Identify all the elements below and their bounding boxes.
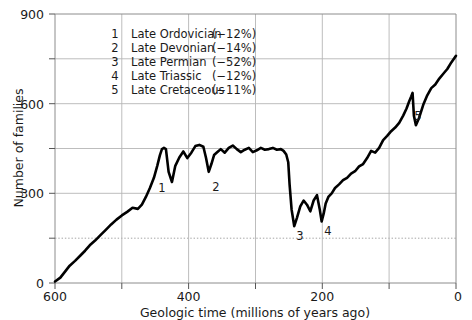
event-marker-2: 2 (212, 180, 219, 194)
chart-canvas: 900 600 300 0 600 400 200 0 Number of fa… (0, 0, 472, 320)
legend-name-4: Late Triassic (131, 69, 202, 83)
event-marker-5: 5 (414, 109, 421, 123)
legend-row-4: 4 Late Triassic (−12%) (111, 69, 256, 83)
extinction-legend: 1 Late Ordovician (−12%) 2 Late Devonian… (111, 27, 256, 97)
legend-row-1: 1 Late Ordovician (−12%) (111, 27, 256, 41)
legend-number-2: 2 (111, 41, 118, 55)
legend-pct-2: (−14%) (212, 41, 256, 55)
event-marker-3: 3 (296, 229, 303, 243)
legend-row-2: 2 Late Devonian (−14%) (111, 41, 256, 55)
diversity-chart-figure: 900 600 300 0 600 400 200 0 Number of fa… (0, 0, 472, 320)
xlabel-200: 200 (310, 289, 334, 304)
ylabel-900: 900 (20, 7, 44, 22)
legend-name-3: Late Permian (131, 55, 207, 69)
legend-pct-5: (−11%) (212, 83, 256, 97)
legend-number-5: 5 (111, 83, 118, 97)
legend-pct-1: (−12%) (212, 27, 256, 41)
legend-pct-4: (−12%) (212, 69, 256, 83)
x-axis-title: Geologic time (millions of years ago) (140, 305, 370, 320)
legend-row-5: 5 Late Cretaceous (−11%) (111, 83, 256, 97)
legend-name-5: Late Cretaceous (131, 83, 225, 97)
xlabel-0: 0 (454, 289, 462, 304)
legend-name-1: Late Ordovician (131, 27, 221, 41)
legend-pct-3: (−52%) (212, 55, 256, 69)
xlabel-400: 400 (177, 289, 201, 304)
legend-row-3: 3 Late Permian (−52%) (111, 55, 256, 69)
y-axis-title: Number of families (11, 88, 26, 207)
legend-number-3: 3 (111, 55, 118, 69)
legend-name-2: Late Devonian (131, 41, 214, 55)
event-marker-4: 4 (324, 224, 331, 238)
legend-number-4: 4 (111, 69, 118, 83)
xlabel-600: 600 (43, 289, 67, 304)
event-marker-1: 1 (158, 181, 165, 195)
legend-number-1: 1 (111, 27, 118, 41)
